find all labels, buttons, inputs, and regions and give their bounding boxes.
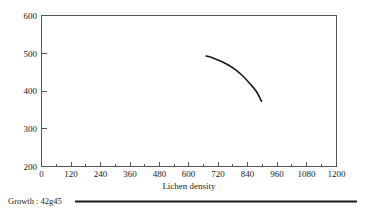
x-axis-title: Lichen density [162, 181, 216, 191]
y-tick-label: 400 [24, 86, 38, 96]
y-tick-label: 500 [24, 49, 38, 59]
y-tick-label: 300 [24, 124, 38, 134]
y-axis-ticks [42, 53, 47, 129]
x-tick-label: 240 [94, 169, 108, 179]
x-tick-label: 480 [153, 169, 167, 179]
y-axis-tick-labels: 600 500 400 300 200 [24, 11, 38, 172]
x-tick-label: 360 [123, 169, 137, 179]
legend-entry-label: Growth : 42g45 [8, 196, 62, 206]
chart-canvas: 600 500 400 300 200 0 120 240 360 480 60… [0, 0, 366, 214]
chart-figure: 600 500 400 300 200 0 120 240 360 480 60… [0, 0, 366, 214]
x-tick-label: 840 [241, 169, 255, 179]
plot-frame [42, 16, 337, 167]
x-axis-tick-labels: 0 120 240 360 480 600 720 840 960 1080 1… [39, 169, 346, 179]
x-tick-label: 0 [39, 169, 44, 179]
x-tick-label: 1200 [328, 169, 347, 179]
chart-legend: Growth : 42g45 [8, 196, 357, 206]
x-tick-label: 960 [270, 169, 284, 179]
x-tick-label: 1080 [298, 169, 317, 179]
y-tick-label: 200 [24, 162, 38, 172]
y-tick-label: 600 [24, 11, 38, 21]
x-tick-label: 600 [182, 169, 196, 179]
data-series-line [206, 56, 261, 101]
x-axis-major-ticks [71, 162, 307, 167]
x-tick-label: 120 [64, 169, 78, 179]
x-tick-label: 720 [211, 169, 225, 179]
